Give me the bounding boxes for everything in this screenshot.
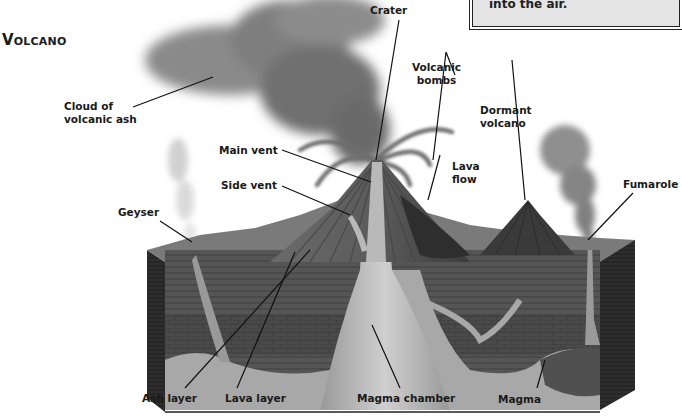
label-lava-layer: Lava layer [225, 392, 286, 405]
label-side-vent: Side vent [221, 179, 277, 192]
label-ash-layer: Ash layer [142, 392, 197, 405]
label-geyser: Geyser [118, 206, 159, 219]
label-line: Volcanic [412, 61, 461, 74]
label-line: Cloud of [64, 100, 137, 113]
label-line: Dormant [480, 104, 532, 117]
block-side-left [147, 250, 165, 412]
label-volcanic-bombs: Volcanic bombs [412, 61, 461, 87]
volcano-diagram: Volcano into the air. Crater Cloud of vo… [0, 0, 682, 417]
label-line: volcano [480, 117, 532, 130]
label-magma: Magma [498, 393, 541, 406]
label-magma-chamber: Magma chamber [357, 392, 455, 405]
label-dormant-volcano: Dormant volcano [480, 104, 532, 130]
label-line: Lava [452, 160, 480, 173]
block-side-right [600, 240, 635, 410]
page-title: Volcano [2, 31, 67, 49]
label-crater: Crater [370, 4, 407, 17]
geyser-steam [168, 138, 196, 247]
label-line: volcanic ash [64, 113, 137, 126]
info-box: into the air. [472, 0, 680, 27]
label-line: flow [452, 173, 480, 186]
label-cloud-of-volcanic-ash: Cloud of volcanic ash [64, 100, 137, 126]
label-fumarole: Fumarole [623, 178, 678, 191]
dormant-volcano [480, 200, 575, 255]
label-line: bombs [412, 74, 461, 87]
info-box-text: into the air. [489, 0, 567, 11]
volcano-illustration [0, 0, 682, 417]
label-lava-flow: Lava flow [452, 160, 480, 186]
label-main-vent: Main vent [219, 144, 278, 157]
